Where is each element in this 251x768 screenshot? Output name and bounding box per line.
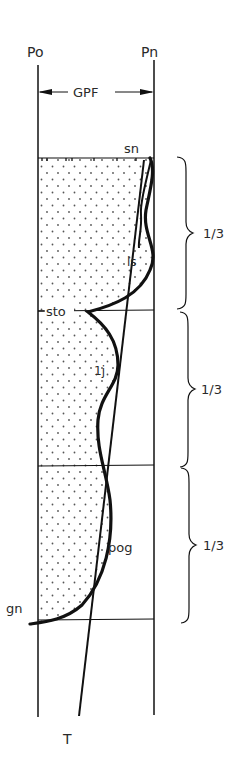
label-ls: ls [127, 255, 137, 269]
label-pog: pog [108, 540, 132, 555]
label-lj: 1j [94, 364, 105, 378]
label-sn: sn [124, 141, 139, 156]
label-sto: sto [46, 304, 66, 319]
label-upper-third: 1/3 [203, 226, 224, 241]
label-gpf: GPF [73, 85, 98, 100]
facial-profile-diagram: Po Pn GPF sn ls sto 1j pog gn T 1/3 1/3 … [0, 0, 251, 768]
label-pn: Pn [141, 44, 158, 60]
brace-upper-third [177, 157, 193, 309]
label-gn: gn [6, 601, 23, 616]
label-middle-third: 1/3 [201, 382, 222, 397]
label-lower-third: 1/3 [203, 538, 224, 553]
brace-middle-third [180, 312, 195, 467]
brace-lower-third [181, 468, 196, 623]
label-po: Po [27, 44, 44, 60]
label-t: T [62, 731, 72, 747]
